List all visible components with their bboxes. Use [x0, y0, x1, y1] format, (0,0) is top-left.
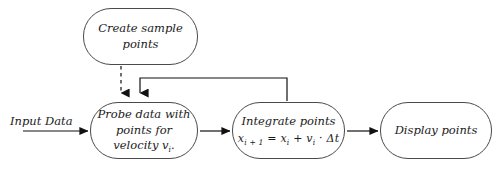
formula-plus: +	[293, 132, 302, 145]
node-probe-velocity-subscript: i	[169, 145, 171, 154]
formula-term1-var: x	[280, 132, 286, 145]
edge-label-input-data: Input Data	[10, 114, 73, 128]
node-probe-line-2: points for	[116, 123, 172, 138]
node-probe-velocity-word: velocity	[113, 138, 158, 152]
node-integrate-formula: xi + 1 = xi + vi · Δt	[238, 132, 340, 147]
formula-lhs-sub: i + 1	[244, 138, 263, 147]
formula-term2-var: v	[306, 132, 312, 145]
formula-term1-sub: i	[287, 138, 290, 147]
diagram-canvas: Input Data Create sample points Probe da…	[0, 0, 504, 170]
node-probe-line-3: velocity vi.	[113, 138, 174, 153]
formula-equals: =	[267, 132, 276, 145]
node-integrate-points[interactable]: Integrate points xi + 1 = xi + vi · Δt	[232, 102, 345, 159]
formula-term3: Δt	[326, 132, 339, 145]
formula-dot: ·	[319, 132, 323, 145]
node-probe-velocity-trailing: .	[171, 138, 175, 152]
node-probe-velocity-symbol: v	[162, 138, 169, 152]
node-display-line-1: Display points	[395, 123, 478, 138]
connector-integrate-feedback-to-probe	[140, 78, 287, 101]
node-create-line-2: points	[123, 37, 159, 52]
node-probe-line-1: Probe data with	[98, 107, 191, 122]
node-create-sample-points[interactable]: Create sample points	[83, 8, 198, 65]
node-display-points[interactable]: Display points	[380, 102, 492, 159]
node-create-line-1: Create sample	[98, 21, 183, 36]
formula-term2-sub: i	[313, 138, 316, 147]
node-probe-data[interactable]: Probe data with points for velocity vi.	[90, 102, 198, 159]
node-integrate-title: Integrate points	[241, 114, 335, 129]
